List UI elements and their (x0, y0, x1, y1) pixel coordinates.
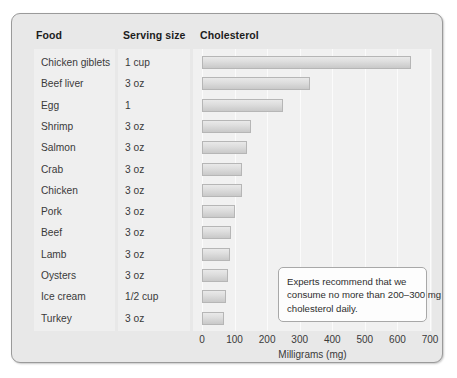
food-name: Lamb (41, 244, 66, 265)
bar-row (193, 201, 432, 222)
bar (202, 163, 242, 176)
x-axis-tick-label: 300 (291, 334, 308, 345)
bar (202, 120, 251, 133)
serving-size: 1 (125, 95, 131, 116)
column-header-food: Food (36, 29, 62, 41)
bar-row (193, 137, 432, 158)
food-name: Salmon (41, 137, 76, 158)
x-axis-tick-label: 600 (389, 334, 406, 345)
bar (202, 99, 283, 112)
serving-size: 1/2 cup (125, 286, 158, 307)
bar-row (193, 116, 432, 137)
chart-panel: Food Serving size Cholesterol Chicken gi… (11, 13, 443, 363)
bar (202, 248, 230, 261)
callout-line-3: cholesterol daily. (287, 302, 418, 315)
food-name: Chicken (41, 180, 78, 201)
serving-size: 3 oz (125, 222, 144, 243)
x-axis-title: Milligrams (mg) (193, 349, 432, 360)
x-axis: Milligrams (mg) 0100200300400500600700 (193, 331, 432, 371)
bar-row (193, 159, 432, 180)
callout-line-2: consume no more than 200–300 mg (287, 288, 418, 301)
bar (202, 77, 310, 90)
column-header-serving-size: Serving size (123, 29, 185, 41)
bar (202, 226, 231, 239)
serving-size: 1 cup (125, 52, 150, 73)
bar (202, 56, 411, 69)
food-name: Shrimp (41, 116, 73, 137)
bar (202, 205, 235, 218)
food-name: Beef liver (41, 73, 83, 94)
food-name: Turkey (41, 308, 72, 329)
serving-size: 3 oz (125, 201, 144, 222)
column-header-cholesterol: Cholesterol (200, 29, 259, 41)
bar-row (193, 222, 432, 243)
serving-size: 3 oz (125, 137, 144, 158)
food-name: Pork (41, 201, 62, 222)
food-name: Chicken giblets (41, 52, 110, 73)
x-axis-tick-label: 500 (357, 334, 374, 345)
x-axis-tick-label: 200 (259, 334, 276, 345)
bar-row (193, 244, 432, 265)
food-name-list: Chicken gibletsBeef liverEggShrimpSalmon… (34, 49, 115, 331)
x-axis-tick-label: 700 (422, 334, 439, 345)
bar (202, 312, 224, 325)
serving-size: 3 oz (125, 180, 144, 201)
serving-size: 3 oz (125, 159, 144, 180)
x-axis-tick-label: 0 (199, 334, 205, 345)
callout-line-1: Experts recommend that we (287, 275, 418, 288)
bar (202, 269, 228, 282)
food-name: Ice cream (41, 286, 86, 307)
bar-row (193, 52, 432, 73)
x-axis-tick-label: 400 (324, 334, 341, 345)
serving-size: 3 oz (125, 244, 144, 265)
food-name: Crab (41, 159, 63, 180)
bar-row (193, 180, 432, 201)
food-name: Beef (41, 222, 62, 243)
serving-size-list: 1 cup3 oz13 oz3 oz3 oz3 oz3 oz3 oz3 oz3 … (118, 49, 190, 331)
serving-size: 3 oz (125, 116, 144, 137)
serving-size: 3 oz (125, 73, 144, 94)
serving-size: 3 oz (125, 308, 144, 329)
x-axis-tick-label: 100 (226, 334, 243, 345)
serving-size: 3 oz (125, 265, 144, 286)
bar-row (193, 95, 432, 116)
bar (202, 141, 247, 154)
food-name: Oysters (41, 265, 76, 286)
bar (202, 290, 226, 303)
bar-row (193, 73, 432, 94)
bar (202, 184, 242, 197)
food-name: Egg (41, 95, 59, 116)
recommendation-callout: Experts recommend that we consume no mor… (278, 267, 427, 322)
